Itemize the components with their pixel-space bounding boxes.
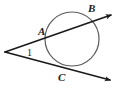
point-label-c: C	[58, 72, 65, 83]
geometry-figure: A B C 1	[0, 0, 118, 90]
circle-shape	[45, 12, 99, 66]
angle-label-1: 1	[27, 48, 32, 58]
point-label-a: A	[38, 26, 45, 37]
secant-line-AB	[5, 15, 111, 52]
point-label-b: B	[88, 3, 95, 14]
